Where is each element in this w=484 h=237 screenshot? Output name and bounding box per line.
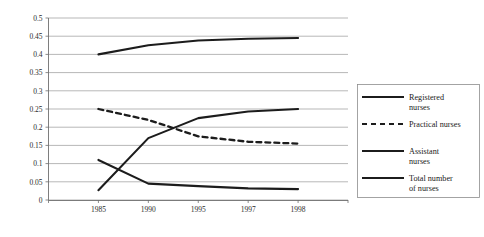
chart-legend: RegisterednursesPractical nursesAssistan… bbox=[358, 85, 480, 198]
y-tick-label: 0.45 bbox=[29, 32, 42, 41]
y-tick-label: 0.5 bbox=[33, 14, 43, 23]
legend-label-line2: of nurses bbox=[409, 184, 439, 193]
chart-svg: 00.050.10.150.20.250.30.350.40.450.5 198… bbox=[0, 0, 484, 237]
gridlines-group bbox=[46, 18, 349, 200]
legend-label-line2: nurses bbox=[409, 157, 430, 166]
y-tick-label: 0 bbox=[39, 196, 43, 205]
y-tick-label: 0.05 bbox=[29, 178, 42, 187]
x-axis-tick-labels: 19851990199519971998 bbox=[91, 205, 306, 214]
y-tick-label: 0.25 bbox=[29, 105, 42, 114]
y-tick-label: 0.3 bbox=[33, 87, 43, 96]
series-line bbox=[98, 109, 298, 190]
x-tick-label: 1990 bbox=[141, 205, 156, 214]
x-tick-label: 1985 bbox=[91, 205, 106, 214]
x-tick-label: 1998 bbox=[291, 205, 306, 214]
legend-label: Assistant bbox=[409, 147, 440, 156]
line-chart: 00.050.10.150.20.250.30.350.40.450.5 198… bbox=[0, 0, 484, 237]
series-line bbox=[98, 109, 298, 144]
y-axis-tick-labels: 00.050.10.150.20.250.30.350.40.450.5 bbox=[29, 14, 42, 205]
data-series-group bbox=[98, 38, 298, 190]
x-tick-label: 1997 bbox=[241, 205, 256, 214]
y-tick-label: 0.2 bbox=[33, 123, 43, 132]
legend-label-line2: nurses bbox=[409, 103, 430, 112]
x-tick-label: 1995 bbox=[191, 205, 206, 214]
y-tick-label: 0.15 bbox=[29, 141, 42, 150]
y-tick-label: 0.35 bbox=[29, 68, 42, 77]
series-line bbox=[98, 38, 298, 54]
series-line bbox=[98, 160, 298, 189]
y-tick-label: 0.4 bbox=[33, 50, 43, 59]
legend-label: Practical nurses bbox=[409, 120, 461, 129]
y-tick-label: 0.1 bbox=[33, 159, 43, 168]
legend-label: Total number bbox=[409, 174, 453, 183]
legend-label: Registered bbox=[409, 93, 444, 102]
